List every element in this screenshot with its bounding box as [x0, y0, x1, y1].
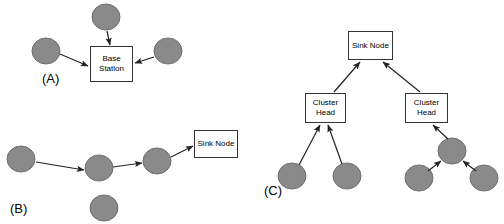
- arrow-a-left-to-base: [60, 54, 88, 66]
- arrow-c-left-1-to-head: [299, 125, 320, 165]
- sensor-node-c-right-1: [405, 165, 433, 191]
- sensor-node-c-left-2: [333, 163, 361, 189]
- arrow-c-left-head-to-sink: [334, 62, 360, 92]
- sensor-node-c-left-1: [278, 163, 306, 189]
- sink-node-box-b: Sink Node: [194, 130, 238, 158]
- arrow-a-top-to-base: [107, 31, 110, 45]
- base-station-box: Base Station: [90, 46, 133, 82]
- network-topology-diagram: Base StationSink NodeSink NodeCluster He…: [0, 0, 504, 224]
- sensor-node-a-left: [32, 38, 60, 64]
- sink-node-box-c: Sink Node: [348, 31, 393, 60]
- sensor-node-b-2: [85, 155, 113, 181]
- arrow-c-right-head-to-sink: [383, 62, 420, 92]
- cluster-head-box-left: Cluster Head: [305, 93, 346, 123]
- arrow-b-1-to-2: [36, 162, 84, 170]
- arrow-c-right-1-to-relay: [428, 161, 441, 171]
- sensor-node-c-relay: [438, 138, 466, 164]
- panel-label-panel-c: (C): [264, 184, 282, 198]
- cluster-head-box-right: Cluster Head: [405, 93, 448, 123]
- sensor-node-a-top: [92, 4, 120, 30]
- sensor-node-b-3: [143, 148, 171, 174]
- panel-label-panel-a: (A): [42, 72, 59, 86]
- arrow-a-right-to-base: [135, 57, 154, 63]
- arrow-c-relay-to-right-head: [433, 125, 448, 139]
- arrow-b-2-to-3: [113, 163, 142, 167]
- arrow-c-left-2-to-head: [328, 125, 342, 164]
- sensor-node-b-1: [7, 146, 35, 172]
- sensor-node-a-right: [154, 38, 182, 64]
- sensor-node-b-isolated: [90, 195, 118, 221]
- panel-label-panel-b: (B): [10, 202, 27, 216]
- arrow-c-right-2-to-relay: [463, 161, 476, 171]
- arrow-b-3-to-sink: [171, 146, 193, 157]
